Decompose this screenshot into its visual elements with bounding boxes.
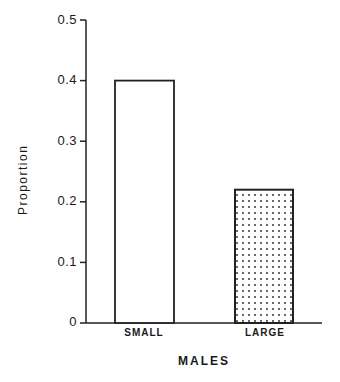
x-axis-label: MALES xyxy=(178,354,230,368)
y-tick-label: 0.1 xyxy=(37,254,77,269)
y-tick-label: 0 xyxy=(37,314,77,329)
category-label-large: LARGE xyxy=(225,327,305,338)
category-label-small: SMALL xyxy=(104,327,184,338)
y-axis-label: Proportion xyxy=(16,145,30,215)
y-tick-label: 0.5 xyxy=(37,12,77,27)
bar-small xyxy=(115,81,174,323)
bar-large xyxy=(235,190,293,323)
y-ticks xyxy=(80,20,86,323)
y-tick-label: 0.4 xyxy=(37,72,77,87)
y-tick-label: 0.2 xyxy=(37,193,77,208)
y-tick-label: 0.3 xyxy=(37,133,77,148)
